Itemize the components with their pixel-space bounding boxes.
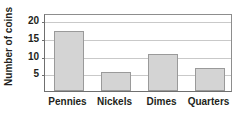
x-tick-label: Quarters — [188, 95, 230, 109]
bar — [54, 31, 84, 91]
y-axis-title: Number of coins — [0, 0, 16, 92]
y-axis-title-label: Number of coins — [3, 7, 14, 86]
x-tick-label: Pennies — [48, 95, 86, 109]
bar — [101, 72, 131, 92]
y-tick-label: 5 — [33, 69, 39, 79]
y-tick-label: 15 — [28, 34, 39, 44]
y-tick-label: 10 — [28, 52, 39, 62]
bar — [195, 68, 225, 91]
y-tick-label: 20 — [28, 16, 39, 26]
bar-chart: Number of coins 5101520 PenniesNickelsDi… — [0, 0, 239, 116]
x-axis-tick-labels: PenniesNickelsDimesQuarters — [44, 95, 232, 111]
bar — [148, 54, 178, 91]
x-tick-label: Nickels — [97, 95, 132, 109]
bars-layer — [45, 15, 231, 91]
plot-area — [44, 14, 232, 92]
x-tick-label: Dimes — [146, 95, 176, 109]
y-axis-tick-labels: 5101520 — [16, 14, 42, 92]
